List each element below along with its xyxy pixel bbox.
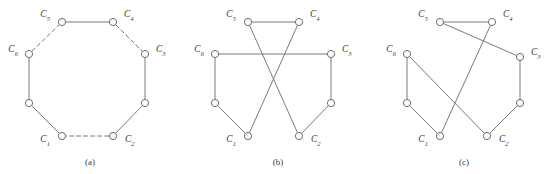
- node-label-c-C4: C4: [503, 9, 513, 22]
- node-label-b-C2: C2: [311, 134, 321, 147]
- panel-caption-b: (b): [273, 157, 284, 167]
- node-a-n8: [25, 50, 32, 57]
- node-c-n5: [483, 132, 490, 139]
- node-b-n6: [244, 132, 251, 139]
- edge-a-n8-n1: [32, 25, 59, 51]
- node-label-c-C3: C3: [531, 47, 541, 60]
- edge-b-n4-n5: [302, 106, 328, 133]
- node-label-a-C1: C1: [40, 134, 50, 147]
- panel-c: C5C4C3C2C1C6(c): [386, 9, 541, 167]
- panel-a: C5C4C3C2C1C6(a): [8, 9, 166, 167]
- node-label-b-C1: C1: [226, 134, 236, 147]
- edge-c-n1-n3: [444, 24, 516, 56]
- node-b-n2: [295, 18, 302, 25]
- node-a-n3: [141, 50, 148, 57]
- node-label-c-C1: C1: [418, 134, 428, 147]
- node-label-b-C4: C4: [310, 9, 320, 22]
- node-label-c-C2: C2: [499, 134, 509, 147]
- node-c-n6: [436, 132, 443, 139]
- edge-group-b: [215, 22, 331, 133]
- edge-c-n4-n5: [490, 106, 517, 133]
- node-b-n7: [211, 99, 218, 106]
- node-label-a-C5: C5: [40, 9, 50, 22]
- node-b-n5: [295, 132, 302, 139]
- node-label-c-C5: C5: [418, 9, 428, 22]
- node-group-a: C5C4C3C2C1C6: [8, 9, 166, 147]
- node-b-n1: [244, 18, 251, 25]
- node-b-n8: [211, 50, 218, 57]
- node-label-a-C6: C6: [8, 44, 18, 57]
- node-label-b-C3: C3: [342, 44, 352, 57]
- edge-a-n6-n7: [32, 106, 59, 133]
- node-c-n7: [403, 99, 410, 106]
- node-b-n3: [327, 50, 334, 57]
- node-label-a-C3: C3: [156, 44, 166, 57]
- node-label-a-C2: C2: [125, 134, 135, 147]
- node-c-n3: [516, 53, 523, 60]
- node-label-b-C6: C6: [194, 44, 204, 57]
- node-c-n4: [516, 99, 523, 106]
- node-a-n2: [109, 18, 116, 25]
- graph-figure-svg: C5C4C3C2C1C6(a)C5C4C3C2C1C6(b)C5C4C3C2C1…: [0, 0, 556, 174]
- node-c-n8: [403, 50, 410, 57]
- panel-b: C5C4C3C2C1C6(b): [194, 9, 352, 167]
- edge-c-n6-n7: [410, 106, 437, 133]
- panel-caption-c: (c): [459, 157, 469, 167]
- node-group-c: C5C4C3C2C1C6: [386, 9, 541, 147]
- edge-group-c: [407, 22, 520, 133]
- node-label-b-C5: C5: [226, 9, 236, 22]
- node-a-n5: [109, 132, 116, 139]
- edge-a-n4-n5: [116, 106, 142, 133]
- edge-a-n2-n3: [116, 25, 142, 51]
- node-b-n4: [327, 99, 334, 106]
- edge-group-a: [29, 22, 145, 136]
- edge-b-n6-n7: [218, 106, 245, 133]
- node-c-n2: [488, 18, 495, 25]
- figure-container: C5C4C3C2C1C6(a)C5C4C3C2C1C6(b)C5C4C3C2C1…: [0, 0, 556, 174]
- node-a-n6: [58, 132, 65, 139]
- node-a-n7: [25, 99, 32, 106]
- edge-c-n2-n6: [442, 26, 490, 132]
- node-label-a-C4: C4: [124, 9, 134, 22]
- node-a-n1: [58, 18, 65, 25]
- node-a-n4: [141, 99, 148, 106]
- node-c-n1: [436, 18, 443, 25]
- panel-caption-a: (a): [85, 157, 95, 167]
- node-label-c-C6: C6: [386, 44, 396, 57]
